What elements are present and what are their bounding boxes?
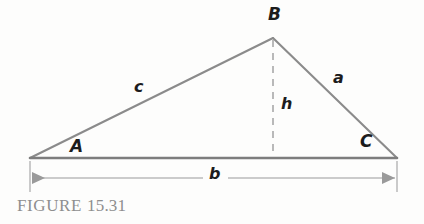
figure-caption: FIGURE15.31 <box>17 196 126 216</box>
figure-caption-prefix: FIGURE <box>17 196 82 215</box>
altitude-label-h: h <box>281 96 292 112</box>
side-label-c: c <box>134 79 143 95</box>
dimension-label-b: b <box>209 166 220 182</box>
vertex-label-a: A <box>70 138 83 155</box>
vertex-label-c: C <box>360 133 372 150</box>
figure-container: B A C c a h b FIGURE15.31 <box>0 0 424 224</box>
vertex-label-b: B <box>268 6 281 23</box>
triangle-side-c <box>30 38 273 158</box>
figure-caption-number: 15.31 <box>87 196 126 215</box>
triangle-diagram-svg <box>0 0 424 224</box>
side-label-a: a <box>333 70 344 86</box>
